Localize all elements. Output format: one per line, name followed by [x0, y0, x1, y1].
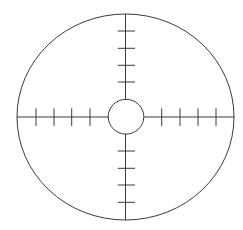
reticle-diagram	[0, 0, 243, 230]
inner-circle	[108, 99, 144, 134]
ticks-top	[118, 31, 135, 82]
ticks-bottom	[118, 151, 135, 202]
